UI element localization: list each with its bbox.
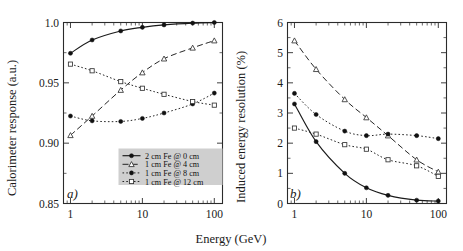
data-marker-filled-circle [386,132,390,136]
panel-a: 0.850.900.951.0 110100 Calorimeter respo… [5,17,223,220]
data-marker-filled-circle [314,140,318,144]
data-marker-filled-circle [436,137,440,141]
data-marker-open-square [292,126,296,130]
data-marker-filled-circle [90,38,94,42]
y-tick-label: 1.0 [45,17,60,29]
data-marker-filled-circle [436,199,440,203]
data-marker-filled-circle [119,119,123,123]
x-tick-label: 1 [292,208,298,220]
data-marker-open-square [68,62,72,66]
data-marker-filled-circle [292,91,296,95]
data-marker-open-square [314,132,318,136]
panel-b-tickmarks [288,23,447,204]
x-tick-label: 10 [361,208,373,220]
y-tick-label: 2 [277,137,283,149]
data-marker-filled-circle [162,111,166,115]
data-marker-open-square [415,164,419,168]
data-marker-filled-circle [364,186,368,190]
data-marker-filled-circle [386,193,390,197]
panel-b-tag: b) [290,186,301,201]
x-tick-label: 10 [137,208,149,220]
data-marker-filled-circle [415,198,419,202]
data-marker-filled-circle [129,154,133,158]
y-tick-label: 1 [277,167,283,179]
series-2 [292,38,441,174]
data-marker-filled-circle [292,102,296,106]
y-tick-label: 0.95 [39,77,59,89]
y-tick-label: 0 [277,198,283,210]
panel-b-x-tick-labels: 110100 [292,208,448,220]
data-marker-filled-circle [191,21,195,25]
data-marker-open-square [119,80,123,84]
data-marker-filled-circle [140,25,144,29]
panel-a-tag: a) [67,186,78,201]
data-marker-filled-circle [68,51,72,55]
data-marker-filled-circle [119,29,123,33]
data-marker-filled-circle [415,134,419,138]
panel-a-x-tick-labels: 110100 [68,208,224,220]
data-marker-open-triangle [161,56,166,61]
data-marker-open-square [90,69,94,73]
y-tick-label: 5 [277,47,283,59]
data-marker-filled-circle [129,171,133,175]
panel-a-y-axis-title: Calorimeter response (a.u.) [5,60,19,196]
panel-a-y-tick-labels: 0.850.900.951.0 [39,17,59,210]
legend: 2 cm Fe @ 0 cm1 cm Fe @ 4 cm1 cm Fe @ 8 … [119,149,223,187]
data-marker-filled-circle [68,114,72,118]
data-marker-filled-circle [314,112,318,116]
data-marker-filled-circle [212,20,216,24]
data-marker-open-square [386,158,390,162]
series-line [294,41,438,172]
data-marker-open-square [343,143,347,147]
data-marker-open-triangle [436,169,441,174]
panel-b-data-curves [292,38,441,203]
data-marker-filled-circle [90,119,94,123]
data-marker-open-triangle [212,38,217,43]
data-marker-open-square [212,103,216,107]
x-tick-label: 100 [206,208,224,220]
y-tick-label: 3 [277,107,283,119]
data-marker-open-triangle [140,70,145,75]
panel-a-data-curves [68,20,217,137]
y-tick-label: 6 [277,17,283,29]
data-marker-filled-circle [140,116,144,120]
x-axis-title: Energy (GeV) [196,232,267,246]
figure-two-panel-calorimeter: 0.850.900.951.0 110100 Calorimeter respo… [0,0,463,251]
x-tick-label: 1 [68,208,74,220]
data-marker-filled-circle [364,134,368,138]
y-tick-label: 0.90 [39,137,59,149]
x-tick-label: 100 [430,208,448,220]
panel-b-y-tick-labels: 0123456 [277,17,283,210]
series-4 [68,62,216,107]
data-marker-filled-circle [212,91,216,95]
data-marker-open-square [129,179,133,183]
legend-item-label: 1 cm Fe @ 12 cm [145,178,204,187]
data-marker-filled-circle [162,23,166,27]
y-tick-label: 0.85 [39,198,59,210]
data-marker-open-square [436,174,440,178]
data-marker-open-square [162,92,166,96]
data-marker-open-square [191,99,195,103]
panel-b-axes-frame [288,23,447,204]
panel-b-y-axis-title: Induced energy resolution (%) [234,51,248,203]
panel-b: 0123456 110100 Induced energy resolution… [234,17,447,220]
data-marker-open-square [364,147,368,151]
data-marker-open-square [140,86,144,90]
data-marker-open-triangle [292,38,297,43]
y-tick-label: 4 [277,77,283,89]
data-marker-filled-circle [343,129,347,133]
data-marker-open-triangle [190,45,195,50]
data-marker-filled-circle [343,171,347,175]
